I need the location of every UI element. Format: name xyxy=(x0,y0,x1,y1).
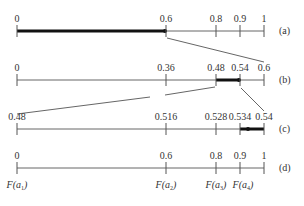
tick-label: 0 xyxy=(15,150,20,161)
row-label: (d) xyxy=(279,162,291,174)
tick-label: 0.6 xyxy=(258,62,271,73)
endpoint-dot xyxy=(246,127,250,131)
row-label: (b) xyxy=(279,74,291,86)
tick-label: 0.534 xyxy=(229,111,252,122)
tick-label: 1 xyxy=(262,13,267,24)
row-label: (a) xyxy=(279,25,290,37)
tick-label: 0.54 xyxy=(255,111,273,122)
tick-label: 0.8 xyxy=(210,13,223,24)
tick-label: 0.9 xyxy=(234,150,247,161)
tick-label: 0.8 xyxy=(210,150,223,161)
tick-label: 0.6 xyxy=(160,150,173,161)
row-b: 0 0.36 0.48 0.54 0.6 (b) xyxy=(15,62,291,86)
zoom-connector xyxy=(241,88,264,111)
tick-label: 0 xyxy=(15,13,20,24)
tick-label: 0.9 xyxy=(234,13,247,24)
tick-label: 1 xyxy=(262,150,267,161)
interval-diagram: 0 0.6 0.8 0.9 1 (a) 0 0.36 0.48 0.54 0.6… xyxy=(0,0,304,206)
row-a: 0 0.6 0.8 0.9 1 (a) xyxy=(15,13,291,37)
f-label: F(a1) xyxy=(6,179,28,191)
tick-label: 0 xyxy=(15,62,20,73)
tick-label: 0.54 xyxy=(231,62,249,73)
tick-label: 0.516 xyxy=(155,111,178,122)
tick-label: 0.48 xyxy=(8,111,26,122)
row-c: 0.48 0.516 0.528 0.534 0.54 (c) xyxy=(8,111,290,135)
row-d: 0 0.6 0.8 0.9 1 (d) F(a1) F(a2) F(a3) F(… xyxy=(6,150,291,191)
row-label: (c) xyxy=(279,123,290,135)
zoom-connector xyxy=(17,97,150,114)
f-label: F(a3) xyxy=(205,179,227,191)
tick-label: 0.36 xyxy=(157,62,175,73)
tick-label: 0.6 xyxy=(160,13,173,24)
zoom-connector xyxy=(167,38,264,62)
tick-label: 0.48 xyxy=(207,62,225,73)
zoom-connector xyxy=(165,87,215,95)
f-label: F(a2) xyxy=(155,179,177,191)
tick-label: 0.528 xyxy=(205,111,228,122)
f-label: F(a4) xyxy=(232,179,254,191)
